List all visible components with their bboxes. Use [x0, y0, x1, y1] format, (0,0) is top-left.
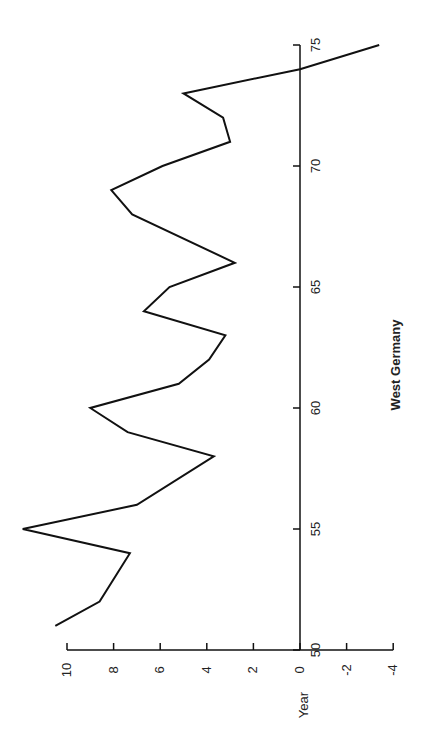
year-tick-label: 75 [308, 38, 323, 52]
series-line-west-germany [23, 45, 380, 626]
year-tick-labels: 505560657075 [308, 38, 323, 657]
value-tick-label: 2 [245, 666, 260, 673]
year-tick-label: 60 [308, 401, 323, 415]
chart-caption: West Germany [388, 319, 403, 411]
year-tick-label: 65 [308, 280, 323, 294]
value-tick-label: 8 [106, 666, 121, 673]
value-tick-label: -2 [339, 664, 354, 676]
axes [67, 45, 393, 650]
value-tick-label: 6 [152, 666, 167, 673]
value-tick-label: 4 [199, 666, 214, 673]
value-tick-label: 0 [292, 666, 307, 673]
value-tick-label: -4 [385, 664, 400, 676]
year-tick-label: 70 [308, 159, 323, 173]
line-chart: 1086420-2-4 505560657075 Year West Germa… [0, 0, 426, 729]
value-tick-label: 10 [59, 663, 74, 677]
year-tick-label: 50 [308, 643, 323, 657]
value-tick-labels: 1086420-2-4 [59, 663, 400, 677]
year-tick-label: 55 [308, 522, 323, 536]
year-axis-label: Year [296, 691, 311, 718]
